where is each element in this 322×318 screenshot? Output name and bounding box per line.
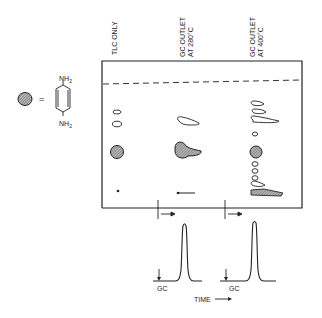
chromatogram-2: GC [220, 222, 276, 293]
lane-label-gc400-line2: AT 400°C [257, 27, 264, 57]
lane-label-tlc-only: TLC ONLY [111, 21, 118, 55]
lower-streaks [251, 162, 265, 187]
spot-open [113, 121, 122, 127]
gc-label-1: GC [157, 285, 168, 292]
lane-gc-280 [175, 117, 201, 195]
legend-equals: = [39, 94, 44, 104]
tlc-gc-diagram: = NH2 NH2 TLC ONLY GC OUTLET AT 280°C GC… [0, 0, 322, 318]
lane-label-gc400-line1: GC OUTLET [249, 16, 256, 57]
arrow-down-icon [224, 277, 228, 281]
plate-border [102, 61, 302, 208]
spot-open-small-400 [252, 132, 257, 136]
spot-diamine-400 [250, 146, 262, 158]
chromatogram-1: GC [153, 224, 202, 292]
gc-inlet-markers [158, 200, 242, 219]
time-label: TIME [194, 296, 211, 303]
benzene-ring-icon [56, 81, 70, 116]
spot-diamine-streak [175, 142, 201, 158]
chromatogram-peak-1 [153, 224, 202, 281]
spot-open-streak [178, 117, 200, 125]
arrow-right-icon [228, 297, 232, 301]
spot-diamine [111, 146, 124, 159]
lane-label-gc280-line2: AT 280°C [187, 27, 194, 57]
amine-bottom: NH2 [59, 120, 72, 129]
lane-labels: TLC ONLY GC OUTLET AT 280°C GC OUTLET AT… [111, 16, 264, 57]
arrow-down-icon [157, 277, 161, 281]
solvent-front [103, 80, 301, 84]
upper-streaks [251, 101, 279, 123]
gc-label-2: GC [229, 285, 240, 292]
origin-dot-280 [177, 192, 180, 195]
origin-dot [117, 190, 120, 193]
origin-streak-400 [251, 189, 283, 196]
amine-top: NH2 [59, 75, 72, 84]
spot-open-small [113, 110, 121, 114]
lane-tlc-only [111, 110, 124, 192]
legend: = NH2 NH2 [18, 75, 72, 129]
lane-gc-400 [250, 101, 283, 196]
tlc-plate [102, 61, 302, 208]
time-axis: TIME [194, 296, 232, 303]
lane-label-gc280-line1: GC OUTLET [179, 16, 186, 57]
chromatogram-peak-2 [220, 222, 276, 282]
legend-spot-icon [18, 93, 32, 106]
